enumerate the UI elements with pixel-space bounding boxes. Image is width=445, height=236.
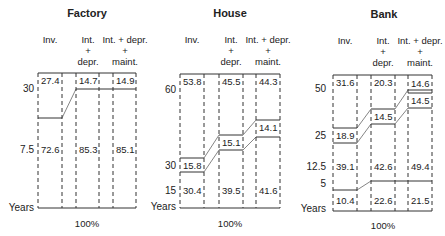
house-xlabel: 100% <box>200 218 260 229</box>
value-label: 45.5 <box>222 76 241 87</box>
house-ytick: 30 <box>150 160 176 171</box>
value-label: 14.7 <box>79 75 98 86</box>
house-col-int-depr-maint: Int. + depr.+maint. <box>241 34 295 67</box>
factory-ytick: 30 <box>8 83 34 94</box>
value-label: 10.4 <box>336 195 355 206</box>
value-label: 20.3 <box>374 77 393 88</box>
value-label: 15.8 <box>183 160 202 171</box>
value-label: 49.4 <box>411 161 430 172</box>
bank-ytick: 50 <box>300 83 326 94</box>
value-label: 39.1 <box>336 161 355 172</box>
house-title: House <box>180 7 280 19</box>
bank-col-inv: Inv. <box>325 35 365 46</box>
value-label: 14.1 <box>259 122 278 133</box>
value-label: 14.5 <box>374 111 393 122</box>
factory-col-inv: Inv. <box>30 34 70 45</box>
value-label: 72.6 <box>41 144 60 155</box>
factory-title: Factory <box>37 7 137 19</box>
bank-ytick: 12.5 <box>300 161 326 172</box>
factory-xlabel: 100% <box>57 218 117 229</box>
bank-title: Bank <box>334 8 434 20</box>
house-ytick: 60 <box>150 84 176 95</box>
value-label: 44.3 <box>259 76 278 87</box>
bank-years-label: Years <box>292 203 326 214</box>
value-label: 85.1 <box>116 144 135 155</box>
value-label: 85.3 <box>79 144 98 155</box>
value-label: 14.6 <box>411 78 430 89</box>
bank-xlabel: 100% <box>353 220 413 231</box>
house-years-label: Years <box>142 201 176 212</box>
value-label: 41.6 <box>259 185 278 196</box>
value-label: 31.6 <box>336 77 355 88</box>
value-label: 14.5 <box>411 95 430 106</box>
factory-col-int-depr-maint: Int. + depr.+maint. <box>98 34 152 67</box>
value-label: 42.6 <box>374 161 393 172</box>
value-label: 53.8 <box>183 76 202 87</box>
value-label: 30.4 <box>183 185 202 196</box>
bank-ytick: 25 <box>300 130 326 141</box>
value-label: 39.5 <box>222 185 241 196</box>
value-label: 22.6 <box>374 195 393 206</box>
value-label: 21.5 <box>411 195 430 206</box>
value-label: 27.4 <box>41 75 60 86</box>
factory-ytick: 7.5 <box>8 144 34 155</box>
bank-col-int-depr-maint: Int. + depr.+maint. <box>393 35 445 68</box>
value-label: 15.1 <box>222 137 241 148</box>
value-label: 14.9 <box>116 75 135 86</box>
house-col-inv: Inv. <box>172 34 212 45</box>
bank-ytick: 5 <box>300 178 326 189</box>
value-label: 18.9 <box>336 130 355 141</box>
factory-frame <box>38 73 136 208</box>
house-ytick: 15 <box>150 185 176 196</box>
factory-years-label: Years <box>0 202 34 213</box>
